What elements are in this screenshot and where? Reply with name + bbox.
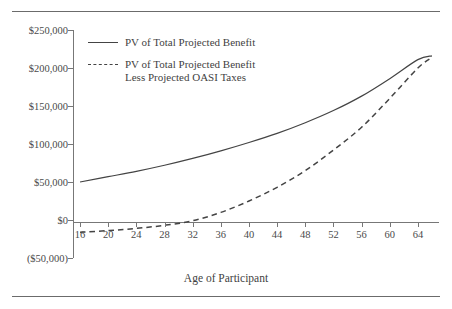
x-axis-title: Age of Participant	[0, 272, 452, 284]
footer-rule	[12, 296, 440, 297]
x-axis-tick-label: 56	[356, 229, 367, 240]
x-axis-tick	[165, 222, 166, 227]
chart-legend: PV of Total Projected BenefitPV of Total…	[88, 36, 255, 93]
x-axis-tick	[418, 222, 419, 227]
x-axis-tick-label: 60	[384, 229, 395, 240]
x-axis-tick-label: 32	[187, 229, 198, 240]
legend-item: PV of Total Projected Benefit	[88, 36, 255, 49]
header-rule	[12, 11, 440, 12]
legend-label-line: Less Projected OASI Taxes	[125, 71, 255, 84]
legend-dashed-key-icon	[88, 64, 118, 65]
legend-label-line: PV of Total Projected Benefit	[125, 58, 255, 71]
y-axis-tick	[68, 220, 73, 221]
figure-page: ($50,000)$0$50,000$100,000$150,000$200,0…	[0, 0, 452, 309]
x-axis-tick	[136, 222, 137, 227]
x-axis-tick-label: 44	[272, 229, 283, 240]
y-axis-tick	[68, 106, 73, 107]
legend-item-label: PV of Total Projected BenefitLess Projec…	[125, 58, 255, 84]
x-axis-tick	[390, 222, 391, 227]
x-axis-tick-label: 52	[328, 229, 339, 240]
x-axis-tick	[249, 222, 250, 227]
x-axis-tick	[221, 222, 222, 227]
y-axis-tick	[68, 68, 73, 69]
y-axis-tick-label: $250,000	[29, 25, 68, 36]
x-axis-tick	[333, 222, 334, 227]
x-axis-tick-label: 16	[75, 229, 86, 240]
x-axis-tick	[108, 222, 109, 227]
x-axis-tick-label: 36	[216, 229, 227, 240]
legend-item: PV of Total Projected BenefitLess Projec…	[88, 58, 255, 84]
x-axis-tick-label: 40	[244, 229, 255, 240]
x-axis-tick	[362, 222, 363, 227]
x-axis-tick	[277, 222, 278, 227]
legend-solid-key-icon	[88, 42, 118, 43]
x-axis-tick	[80, 222, 81, 227]
y-axis-tick-label: ($50,000)	[27, 253, 68, 264]
y-axis-tick-label: $50,000	[34, 177, 68, 188]
x-axis-tick	[305, 222, 306, 227]
y-axis-tick-label: $200,000	[29, 63, 68, 74]
y-axis-tick	[68, 144, 73, 145]
x-axis-tick-label: 48	[300, 229, 311, 240]
legend-label-line: PV of Total Projected Benefit	[125, 36, 255, 49]
y-axis-tick-label: $100,000	[29, 139, 68, 150]
x-axis-tick-label: 20	[103, 229, 114, 240]
y-axis-tick-label: $150,000	[29, 101, 68, 112]
x-axis-tick	[193, 222, 194, 227]
y-axis-tick	[68, 182, 73, 183]
y-axis-tick-label: $0	[58, 215, 69, 226]
x-axis-tick-label: 28	[159, 229, 170, 240]
y-axis-tick	[68, 30, 73, 31]
legend-item-label: PV of Total Projected Benefit	[125, 36, 255, 49]
x-axis-tick-label: 64	[413, 229, 424, 240]
y-axis-tick	[68, 258, 73, 259]
y-axis-labels: ($50,000)$0$50,000$100,000$150,000$200,0…	[0, 30, 68, 258]
x-axis-tick-label: 24	[131, 229, 142, 240]
